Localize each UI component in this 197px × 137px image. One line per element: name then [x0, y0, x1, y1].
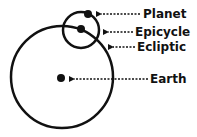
label-ecliptic: Ecliptic	[113, 40, 186, 54]
epicycle-center-dot	[77, 25, 85, 33]
label-earth: Earth	[74, 72, 187, 86]
earth-dot	[57, 74, 65, 82]
planet-dot	[84, 10, 92, 18]
label-planet: Planet	[101, 7, 187, 21]
epicycle-diagram: Planet Epicycle Ecliptic Earth	[0, 0, 197, 137]
ecliptic-label: Ecliptic	[137, 40, 186, 54]
planet-label: Planet	[143, 7, 187, 21]
earth-label: Earth	[150, 72, 187, 86]
label-epicycle: Epicycle	[108, 25, 190, 39]
epicycle-label: Epicycle	[135, 25, 190, 39]
